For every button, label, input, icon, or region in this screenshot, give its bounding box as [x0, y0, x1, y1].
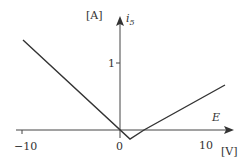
x-tick-label-neg10: −10 — [14, 140, 37, 153]
x-tick-label-10: 10 — [199, 139, 213, 152]
x-tick-label-0: 0 — [116, 140, 123, 153]
chart: [A] i5 1 E −10 0 10 [V] — [0, 0, 245, 163]
y-unit-label: [A] — [86, 9, 103, 22]
y-axis-label: i5 — [126, 12, 135, 27]
x-axis-label: E — [211, 111, 220, 124]
y-tick-label-1: 1 — [108, 57, 115, 70]
x-unit-label: [V] — [221, 145, 238, 158]
data-line — [23, 40, 225, 139]
